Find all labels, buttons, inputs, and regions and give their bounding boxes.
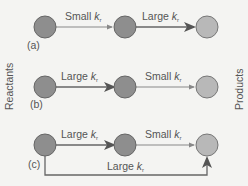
step2-label: Small kr	[145, 128, 181, 141]
panel-a-label: (a)	[27, 39, 40, 51]
product-node	[196, 16, 218, 38]
step2-label: Large kr	[142, 10, 179, 23]
panel-c: Large kr Small kr Large kr (c)	[28, 128, 218, 175]
products-label: Products	[233, 69, 245, 110]
step2-label: Small kr	[145, 70, 181, 83]
bypass-label: Large kr	[107, 160, 144, 173]
reactant-node	[34, 76, 56, 98]
step1-label: Large kr	[61, 128, 98, 141]
reactant-node	[34, 134, 56, 156]
product-node	[196, 76, 218, 98]
intermediate-node	[114, 16, 136, 38]
product-node	[196, 134, 218, 156]
intermediate-node	[114, 134, 136, 156]
panel-c-label: (c)	[28, 158, 40, 170]
panel-b: Large kr Small kr (b)	[30, 70, 218, 110]
step1-label: Small kr	[65, 10, 101, 23]
reactants-label: Reactants	[3, 63, 15, 110]
panel-a: Small kr Large kr (a)	[27, 10, 218, 51]
reaction-pathway-diagram: Reactants Products Small kr Large kr (a)…	[0, 0, 248, 186]
panel-b-label: (b)	[30, 98, 43, 110]
intermediate-node	[114, 76, 136, 98]
step1-label: Large kr	[61, 70, 98, 83]
reactant-node	[34, 16, 56, 38]
